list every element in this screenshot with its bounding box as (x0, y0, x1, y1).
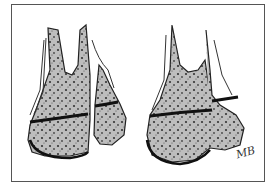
left-bone-fragment (92, 40, 126, 145)
left-bone-main (28, 25, 90, 158)
right-bone (147, 25, 244, 164)
bone-illustration (0, 0, 274, 186)
